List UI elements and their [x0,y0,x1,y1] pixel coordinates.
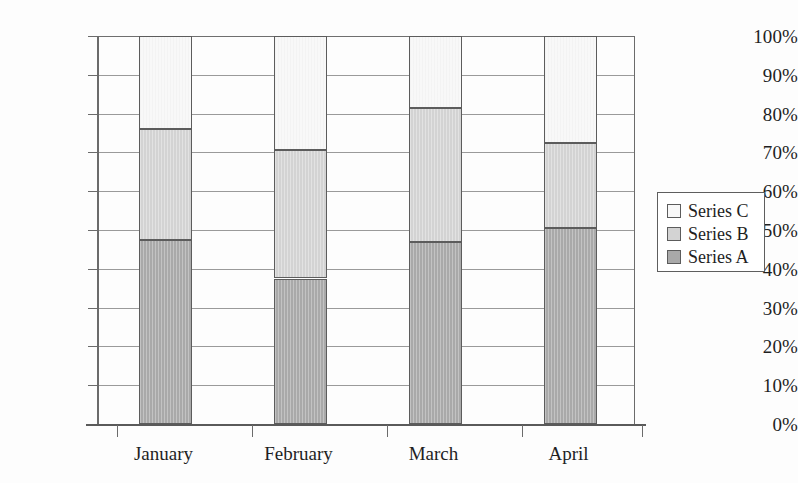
legend-swatch-icon [667,204,681,218]
bar-segment-march-series-b[interactable] [409,108,462,242]
x-tick-mark [252,425,253,437]
bar-segment-january-series-c[interactable] [139,36,192,129]
legend-label: Series B [688,225,749,243]
legend-swatch-icon [667,250,681,264]
bar-january[interactable] [139,36,192,424]
bar-march[interactable] [409,36,462,424]
legend-item-series-b[interactable]: Series B [667,222,764,245]
bar-segment-january-series-b[interactable] [139,129,192,240]
y-tick-label: 80% [726,104,798,123]
y-tick-label: 30% [726,298,798,317]
x-tick-mark [387,425,388,437]
bar-april[interactable] [544,36,597,424]
chart-page: 0%10%20%30%40%50%60%70%80%90%100% Januar… [0,0,798,483]
bar-segment-march-series-a[interactable] [409,242,462,424]
y-tick-label: 0% [726,415,798,434]
bar-february[interactable] [274,36,327,424]
bar-segment-february-series-b[interactable] [274,150,327,278]
bar-segment-february-series-c[interactable] [274,36,327,150]
y-tick-label: 20% [726,337,798,356]
y-tick-label: 100% [726,27,798,46]
bar-segment-january-series-a[interactable] [139,240,192,424]
bar-segment-february-series-a[interactable] [274,279,327,425]
y-tick-label: 90% [726,65,798,84]
bar-segment-april-series-a[interactable] [544,228,597,424]
bar-segment-march-series-c[interactable] [409,36,462,108]
legend-swatch-icon [667,227,681,241]
x-tick-mark [642,425,643,437]
x-axis-line [86,424,646,426]
plot-area [97,36,635,424]
bar-segment-april-series-c[interactable] [544,36,597,143]
legend-item-series-a[interactable]: Series A [667,245,764,268]
legend-label: Series C [688,202,749,220]
y-tick-label: 10% [726,376,798,395]
legend-item-series-c[interactable]: Series C [667,199,764,222]
x-tick-mark [522,425,523,437]
y-tick-label: 70% [726,143,798,162]
x-tick-mark [117,425,118,437]
x-tick-label-april: April [489,443,649,465]
chart-legend: Series CSeries BSeries A [657,192,765,272]
bar-segment-april-series-b[interactable] [544,143,597,228]
legend-label: Series A [688,248,749,266]
